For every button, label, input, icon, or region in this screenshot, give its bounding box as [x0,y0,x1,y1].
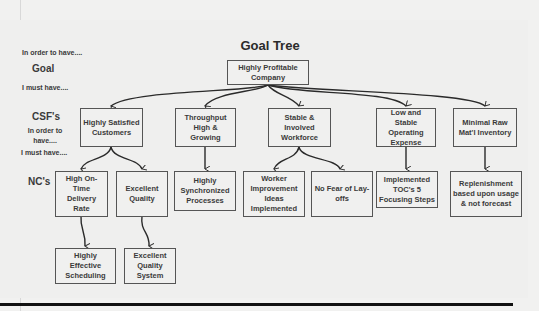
nc-node-label: Highly Effective Scheduling [58,251,113,281]
csf-node-label: Stable & Involved Workforce [271,113,328,143]
csf-node-highly-satisfied-customers: Highly Satisfied Customers [80,108,143,147]
nc-node-label: Replenishment based upon usage & not for… [453,179,519,209]
nc-node-label: High On-Time Delivery Rate [58,174,105,214]
nc-node-highly-effective-scheduling: Highly Effective Scheduling [55,248,116,284]
csf-node-low-stable-operating-expense: Low and Stable Operating Expense [376,108,436,147]
goal-node: Highly Profitable Company [227,60,309,85]
nc-node-replenishment-based-on-usage: Replenishment based upon usage & not for… [450,171,522,217]
nc-node-excellent-quality: Excellent Quality [116,171,168,217]
goal-node-label: Highly Profitable Company [230,63,306,83]
nc-node-no-fear-of-layoffs: No Fear of Lay-offs [311,171,373,217]
csf-node-label: Highly Satisfied Customers [83,118,140,138]
csf-node-stable-involved-workforce: Stable & Involved Workforce [268,108,331,147]
csf-node-label: Minimal Raw Mat'l Inventory [456,118,514,138]
nc-node-label: Implemented TOC's 5 Focusing Steps [379,175,435,205]
nc-node-high-on-time-delivery-rate: High On-Time Delivery Rate [55,171,108,217]
nc-node-highly-synchronized-processes: Highly Synchronized Processes [174,171,236,211]
bottom-rule [0,303,513,306]
csf-node-minimal-raw-matl-inventory: Minimal Raw Mat'l Inventory [453,108,517,147]
csf-node-throughput-high-growing: Throughput High & Growing [175,108,236,147]
nc-node-excellent-quality-system: Excellent Quality System [124,248,176,284]
nc-node-implemented-toc-5-focusing-steps: Implemented TOC's 5 Focusing Steps [376,171,438,208]
nc-node-label: Excellent Quality System [127,251,173,281]
nc-node-label: Excellent Quality [119,184,165,204]
csf-node-label: Low and Stable Operating Expense [379,108,433,148]
nc-node-worker-improvement-ideas: Worker Improvement Ideas Implemented [243,171,305,217]
nc-node-label: No Fear of Lay-offs [314,184,370,204]
nc-node-label: Highly Synchronized Processes [177,176,233,206]
csf-node-label: Throughput High & Growing [178,113,233,143]
nc-node-label: Worker Improvement Ideas Implemented [246,174,302,214]
